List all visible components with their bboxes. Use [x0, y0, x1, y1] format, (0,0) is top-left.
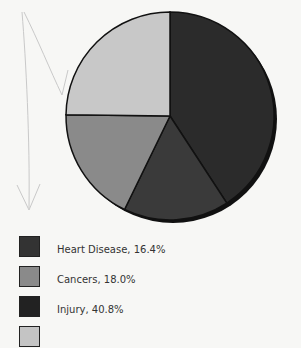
hand-drawn-zigzag — [24, 12, 68, 95]
legend-swatch — [19, 326, 40, 347]
legend-label: Heart Disease, 16.4% — [57, 244, 165, 255]
legend-swatch — [19, 236, 40, 257]
legend-swatch — [19, 296, 40, 317]
legend-swatch — [19, 266, 40, 287]
arrow-head-icon — [17, 184, 40, 210]
legend-label: Cancers, 18.0% — [57, 274, 136, 285]
hand-drawn-arrow-line — [22, 12, 29, 208]
legend-label: Injury, 40.8% — [57, 304, 124, 315]
pie-slice-other — [66, 12, 170, 116]
